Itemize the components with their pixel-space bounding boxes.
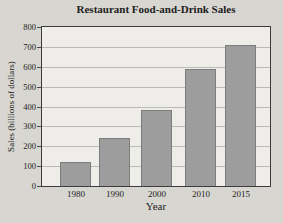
y-tick-label-700: 700: [0, 42, 36, 52]
bar-1990: [99, 138, 130, 186]
y-tick-label-200: 200: [0, 141, 36, 151]
bar-1980: [60, 162, 91, 186]
y-tick-label-600: 600: [0, 62, 36, 72]
chart-figure: Restaurant Food-and-Drink Sales Sales (b…: [0, 0, 283, 223]
bar-2000: [141, 110, 172, 186]
x-tick-label-1980: 1980: [56, 189, 96, 200]
y-tick-mark-500: [37, 87, 41, 88]
x-tick-label-2010: 2010: [181, 189, 221, 200]
plot-area: [41, 26, 271, 187]
y-tick-label-800: 800: [0, 22, 36, 32]
y-tick-mark-300: [37, 126, 41, 127]
y-tick-mark-0: [37, 186, 41, 187]
y-tick-label-300: 300: [0, 121, 36, 131]
y-tick-label-100: 100: [0, 161, 36, 171]
y-tick-mark-800: [37, 27, 41, 28]
x-tick-label-2015: 2015: [221, 189, 261, 200]
y-tick-label-0: 0: [0, 181, 36, 191]
y-tick-label-500: 500: [0, 82, 36, 92]
y-tick-mark-700: [37, 47, 41, 48]
x-axis-title: Year: [41, 200, 271, 212]
x-tick-label-1990: 1990: [95, 189, 135, 200]
y-tick-label-400: 400: [0, 102, 36, 112]
y-tick-mark-200: [37, 146, 41, 147]
y-tick-mark-600: [37, 67, 41, 68]
chart-title: Restaurant Food-and-Drink Sales: [41, 3, 271, 15]
bar-2015: [225, 45, 256, 186]
x-tick-label-2000: 2000: [137, 189, 177, 200]
bar-2010: [185, 69, 216, 186]
y-tick-mark-100: [37, 166, 41, 167]
y-tick-mark-400: [37, 107, 41, 108]
